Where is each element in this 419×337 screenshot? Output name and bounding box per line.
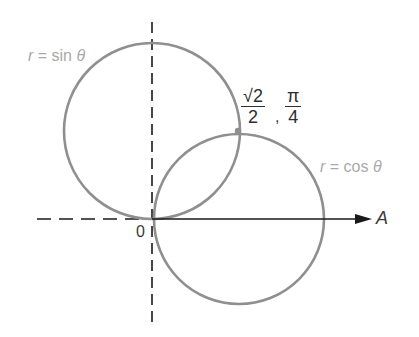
axis-letter: A — [376, 208, 388, 228]
theta-numerator: π — [285, 87, 301, 107]
intersection-theta-fraction: π 4 — [285, 87, 301, 127]
equation-text: = sin — [33, 47, 76, 64]
r-numerator: √2 — [241, 87, 265, 107]
sin-curve-label: r = sin θ — [28, 47, 85, 65]
axis-label: A — [376, 208, 388, 229]
coordinate-separator: , — [275, 108, 279, 126]
equation-text: = cos — [325, 158, 373, 175]
cos-curve-label: r = cos θ — [320, 158, 382, 176]
origin-label: 0 — [136, 223, 145, 241]
theta-symbol: θ — [76, 47, 85, 64]
intersection-point — [235, 128, 241, 134]
theta-symbol: θ — [373, 158, 382, 175]
r-denominator: 2 — [241, 107, 265, 127]
axis-arrow-icon — [355, 214, 372, 224]
theta-denominator: 4 — [285, 107, 301, 127]
intersection-r-fraction: √2 2 — [241, 87, 265, 127]
